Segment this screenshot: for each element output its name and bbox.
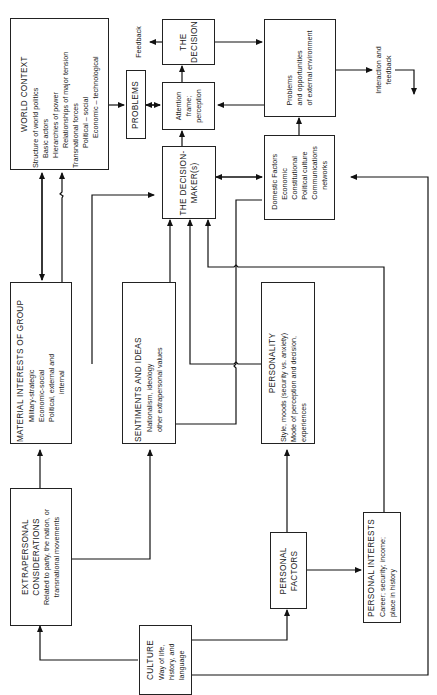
sentiments-line: Nationalism, ideology: [144, 284, 154, 442]
world-context-line: Economic – technological: [90, 20, 100, 168]
node-problems: PROBLEMS: [126, 70, 146, 139]
node-culture: CULTURE Way of life, history, and langua…: [139, 625, 192, 695]
world-context-line: Relationships of major tension: [60, 20, 70, 168]
world-context-title: WORLD CONTEXT: [19, 20, 30, 168]
world-context-line: Structure of world politics: [30, 20, 40, 168]
culture-title: CULTURE: [145, 640, 156, 680]
world-context-line: Basic actors: [40, 20, 50, 168]
node-domestic-factors: Domestic Factors Economic Constitutional…: [264, 135, 335, 220]
decision-maker-line: MAKER(s): [189, 150, 200, 215]
world-context-line: Political – social: [80, 20, 90, 168]
external-line: of external environment: [305, 30, 315, 105]
personality-title: PERSONALITY: [268, 284, 279, 442]
decision-line: THE: [178, 21, 189, 63]
interaction-feedback-label: Interaction and feedback: [372, 38, 396, 102]
extrapersonal-line: Related to party, the nation, or: [42, 509, 52, 605]
material-line: Military-strategic: [26, 284, 36, 442]
attention-line: frame;: [184, 89, 194, 123]
attention-line: perception: [194, 89, 204, 123]
material-line: Political, external and: [46, 284, 56, 442]
node-personal-factors: PERSONAL FACTORS: [270, 532, 307, 609]
external-line: Problems: [285, 30, 295, 105]
attention-line: Attention: [174, 89, 184, 123]
personality-line: experiences: [298, 284, 308, 442]
personal-interests-line: Career; security; income;: [377, 519, 387, 617]
node-sentiments-ideas: SENTIMENTS AND IDEAS Nationalism, ideolo…: [122, 282, 176, 444]
domestic-line: networks: [320, 146, 330, 210]
domestic-title: Domestic Factors: [270, 146, 280, 210]
culture-line: history, and: [166, 640, 176, 680]
personal-interests-title: PERSONAL INTERESTS: [367, 519, 378, 617]
personality-line: Style, moods (security vs. anxiety): [278, 284, 288, 442]
extrapersonal-line: transnational movements: [52, 509, 62, 605]
material-line: Economic-social: [36, 284, 46, 442]
decision-maker-line: THE DECISION-: [179, 150, 190, 215]
personality-line: Mode of perception and decision,: [288, 284, 298, 442]
material-line: internal: [56, 284, 66, 442]
node-attention-frame: Attention frame; perception: [162, 82, 215, 130]
node-external-environment: Problems and opportunities of external e…: [264, 19, 336, 117]
personal-interests-line: place in history: [387, 519, 397, 617]
feedback-label: Feedback: [132, 22, 146, 62]
node-personality: PERSONALITY Style, moods (security vs. a…: [261, 282, 315, 444]
node-the-decision: THE DECISION: [162, 19, 215, 65]
sentiments-line: other extrapersonal values: [154, 284, 164, 442]
extrapersonal-title: CONSIDERATIONS: [31, 509, 42, 605]
domestic-line: Political culture: [300, 146, 310, 210]
domestic-line: Economic: [280, 146, 290, 210]
culture-line: language: [176, 640, 186, 680]
world-context-line: Hierarchies of power: [50, 20, 60, 168]
decision-line: DECISION: [189, 21, 200, 63]
node-world-context: WORLD CONTEXT Structure of world politic…: [10, 18, 109, 170]
node-material-interests: MATERIAL INTERESTS OF GROUP Military-str…: [10, 282, 72, 444]
node-personal-interests: PERSONAL INTERESTS Career; security; inc…: [363, 512, 401, 623]
problems-title: PROBLEMS: [131, 81, 142, 129]
personal-factors-line: FACTORS: [289, 547, 300, 594]
culture-line: Way of life,: [156, 640, 166, 680]
node-extrapersonal: EXTRAPERSONAL CONSIDERATIONS Related to …: [10, 488, 72, 626]
world-context-line: Transnational forces: [70, 20, 80, 168]
extrapersonal-title: EXTRAPERSONAL: [21, 509, 32, 605]
node-decision-maker: THE DECISION- MAKER(s): [162, 146, 216, 219]
domestic-line: Constitutional: [290, 146, 300, 210]
external-line: and opportunities: [295, 30, 305, 105]
material-title: MATERIAL INTERESTS OF GROUP: [16, 284, 27, 442]
domestic-line: Communications: [310, 146, 320, 210]
personal-factors-line: PERSONAL: [278, 547, 289, 594]
sentiments-title: SENTIMENTS AND IDEAS: [134, 284, 145, 442]
